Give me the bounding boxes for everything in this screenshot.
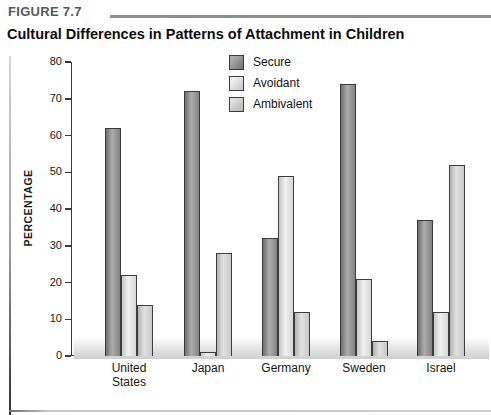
- y-tick-label: 60: [34, 129, 62, 141]
- bar-ambivalent-japan: [216, 253, 232, 356]
- legend-swatch-secure: [229, 55, 244, 70]
- figure-bottom-border: [9, 410, 491, 412]
- chart-area: PERCENTAGE 01020304050607080United State…: [0, 0, 491, 415]
- y-tick: [65, 172, 71, 174]
- bar-secure-japan: [184, 91, 200, 356]
- figure-7-7: FIGURE 7.7 Cultural Differences in Patte…: [0, 0, 491, 415]
- bar-ambivalent-united-states: [137, 305, 153, 356]
- y-tick: [65, 98, 71, 100]
- x-category-label: United States: [99, 362, 159, 390]
- x-category-label: Japan: [178, 362, 238, 376]
- legend-swatch-avoidant: [229, 76, 244, 91]
- x-category-label: Sweden: [334, 362, 394, 376]
- legend-label-avoidant: Avoidant: [253, 76, 299, 90]
- y-tick-label: 80: [34, 55, 62, 67]
- y-tick-label: 10: [34, 312, 62, 324]
- bar-ambivalent-sweden: [372, 341, 388, 356]
- bar-avoidant-israel: [433, 312, 449, 356]
- y-tick-label: 50: [34, 165, 62, 177]
- y-tick-label: 70: [34, 92, 62, 104]
- bar-avoidant-sweden: [356, 279, 372, 356]
- y-tick: [65, 319, 71, 321]
- bar-secure-united-states: [105, 128, 121, 356]
- y-axis: [71, 62, 73, 356]
- y-tick: [65, 208, 71, 210]
- bar-secure-israel: [417, 220, 433, 356]
- y-tick-label: 30: [34, 239, 62, 251]
- bar-avoidant-united-states: [121, 275, 137, 356]
- bar-ambivalent-israel: [449, 165, 465, 356]
- bar-ambivalent-germany: [294, 312, 310, 356]
- y-tick: [65, 282, 71, 284]
- legend-swatch-ambivalent: [229, 97, 244, 112]
- y-tick: [65, 245, 71, 247]
- x-category-label: Germany: [256, 362, 316, 376]
- y-tick: [65, 355, 71, 357]
- bar-avoidant-japan: [200, 352, 216, 356]
- y-tick-label: 20: [34, 276, 62, 288]
- y-axis-title: PERCENTAGE: [22, 108, 34, 308]
- x-category-label: Israel: [411, 362, 471, 376]
- bar-avoidant-germany: [278, 176, 294, 356]
- y-tick: [65, 135, 71, 137]
- y-tick-label: 0: [34, 349, 62, 361]
- bar-secure-germany: [262, 238, 278, 356]
- y-tick: [65, 61, 71, 63]
- y-tick-label: 40: [34, 202, 62, 214]
- bar-secure-sweden: [340, 84, 356, 356]
- legend-label-secure: Secure: [253, 55, 291, 69]
- legend-label-ambivalent: Ambivalent: [253, 97, 312, 111]
